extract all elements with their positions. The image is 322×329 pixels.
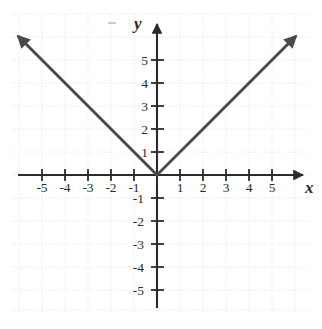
y-tick-label: 2: [126, 123, 148, 137]
graph-figure: y x -5 -4 -3 -2 -1 1 2 3 4 5 5 4 3 2 1 -…: [0, 0, 322, 329]
x-tick-label: 2: [192, 181, 214, 195]
x-tick-label: -4: [54, 181, 76, 195]
x-tick-label: -2: [100, 181, 122, 195]
x-tick-label: 4: [238, 181, 260, 195]
y-tick-label: 1: [126, 146, 148, 160]
y-tick-label: -3: [122, 238, 144, 252]
y-tick-label: 5: [126, 54, 148, 68]
y-tick-label: 4: [126, 77, 148, 91]
scan-speck: [108, 22, 116, 24]
x-tick-label: 3: [215, 181, 237, 195]
x-tick-label: -3: [77, 181, 99, 195]
coordinate-plane: [0, 0, 322, 329]
y-axis-label: y: [134, 15, 142, 32]
y-tick-label: -1: [122, 192, 144, 206]
y-tick-label: 3: [126, 100, 148, 114]
x-tick-label: 1: [169, 181, 191, 195]
y-tick-label: -4: [122, 261, 144, 275]
x-axis-label: x: [305, 179, 314, 196]
x-tick-label: -5: [31, 181, 53, 195]
x-tick-label: 5: [261, 181, 283, 195]
y-tick-label: -2: [122, 215, 144, 229]
y-tick-label: -5: [122, 284, 144, 298]
